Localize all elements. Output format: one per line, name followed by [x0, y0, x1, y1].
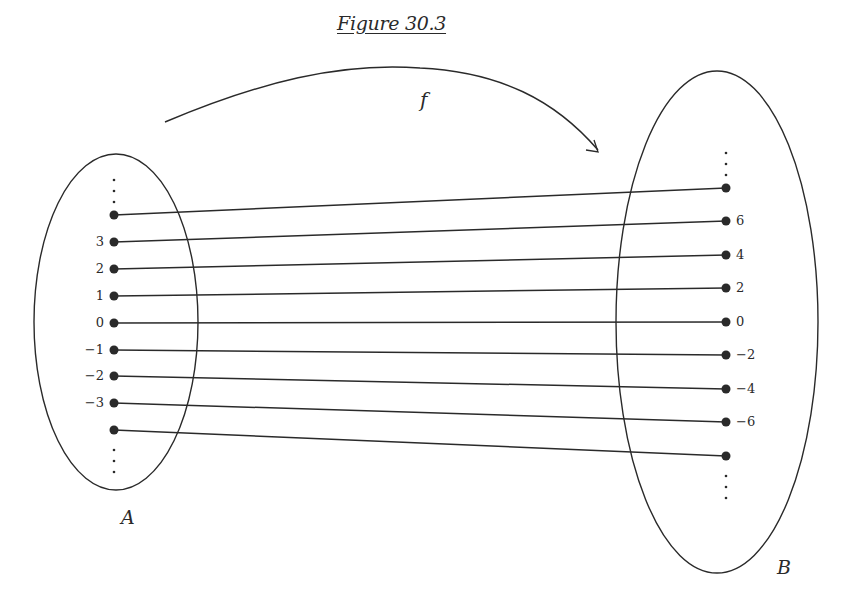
domain-element-dot [110, 292, 119, 301]
mapping-line [114, 376, 726, 389]
domain-element-dot [110, 426, 119, 435]
codomain-top-ellipsis-icon [725, 163, 728, 166]
codomain-element-label: −6 [736, 415, 776, 429]
codomain-element-label: 0 [736, 315, 776, 329]
domain-top-ellipsis-icon [113, 201, 116, 204]
codomain-element-label: 6 [736, 214, 776, 228]
mapping-line [114, 350, 726, 355]
codomain-bottom-ellipsis-icon [725, 497, 728, 500]
domain-bottom-ellipsis-icon [113, 449, 116, 452]
codomain-element-dot [722, 385, 731, 394]
domain-element-label: 2 [64, 262, 104, 276]
codomain-element-dot [722, 251, 731, 260]
mapping-line [114, 188, 726, 215]
codomain-element-dot [722, 318, 731, 327]
codomain-element-label: 4 [736, 248, 776, 262]
domain-element-label: −1 [64, 343, 104, 357]
domain-element-dot [110, 346, 119, 355]
domain-top-ellipsis-icon [113, 190, 116, 193]
codomain-bottom-ellipsis-icon [725, 475, 728, 478]
mapping-line [114, 322, 726, 323]
domain-element-label: −2 [64, 369, 104, 383]
mapping-line [114, 221, 726, 242]
domain-element-dot [110, 211, 119, 220]
domain-element-dot [110, 319, 119, 328]
codomain-top-ellipsis-icon [725, 174, 728, 177]
domain-top-ellipsis-icon [113, 179, 116, 182]
function-mapping-diagram: Figure 30.3 f A B 3210−1−2−36420−2−4−6 [0, 0, 846, 609]
domain-element-label: 3 [64, 235, 104, 249]
codomain-element-dot [722, 184, 731, 193]
domain-element-dot [110, 238, 119, 247]
mapping-line [114, 255, 726, 269]
domain-element-dot [110, 372, 119, 381]
domain-bottom-ellipsis-icon [113, 460, 116, 463]
codomain-top-ellipsis-icon [725, 152, 728, 155]
domain-bottom-ellipsis-icon [113, 471, 116, 474]
codomain-element-dot [722, 418, 731, 427]
domain-element-dot [110, 265, 119, 274]
function-arrow-icon [165, 67, 598, 152]
codomain-element-dot [722, 284, 731, 293]
domain-element-label: 1 [64, 289, 104, 303]
codomain-element-label: −2 [736, 348, 776, 362]
mapping-line [114, 403, 726, 422]
diagram-canvas [0, 0, 846, 609]
domain-element-dot [110, 399, 119, 408]
domain-element-label: 0 [64, 316, 104, 330]
codomain-bottom-ellipsis-icon [725, 486, 728, 489]
mapping-line [114, 288, 726, 296]
domain-element-label: −3 [64, 396, 104, 410]
codomain-element-label: 2 [736, 281, 776, 295]
codomain-element-dot [722, 217, 731, 226]
codomain-element-label: −4 [736, 382, 776, 396]
codomain-element-dot [722, 351, 731, 360]
mapping-line [114, 430, 726, 456]
codomain-element-dot [722, 452, 731, 461]
